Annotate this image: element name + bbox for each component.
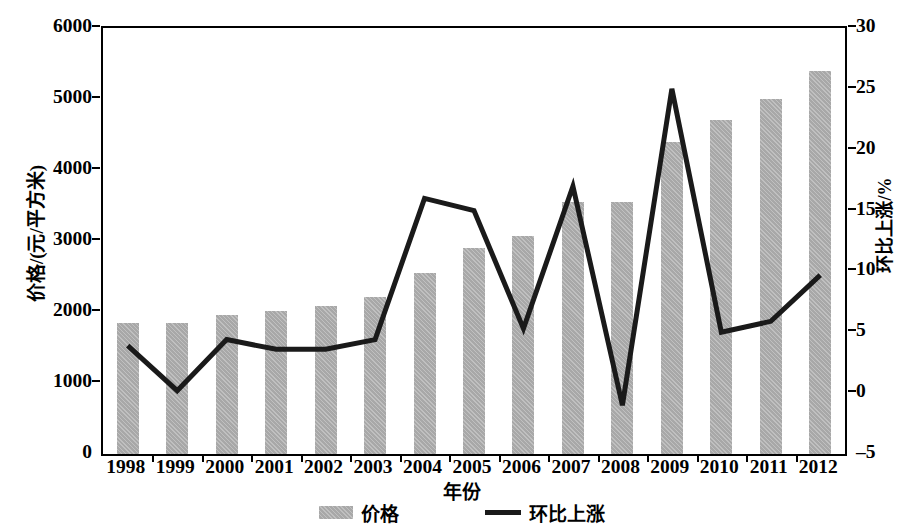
y-tickmark-right-0 — [848, 390, 856, 392]
y-tick-right-5: 5 — [856, 319, 866, 341]
bar-2001 — [265, 311, 287, 454]
y-tick-right--5: –5 — [856, 441, 876, 463]
bar-2004 — [414, 273, 436, 454]
y-tick-right-15: 15 — [856, 198, 876, 220]
x-tick-2002: 2002 — [304, 456, 343, 478]
y-tick-left-3000: 3000 — [53, 228, 92, 250]
chart-figure: 价格/(元/平方米) 环比上涨/% 0100020003000400050006… — [0, 0, 924, 526]
bar-1999 — [166, 323, 188, 454]
x-tick-2008: 2008 — [601, 456, 640, 478]
x-tick-2004: 2004 — [403, 456, 442, 478]
x-tick-2012: 2012 — [799, 456, 838, 478]
y-tickmark-right-5 — [848, 329, 856, 331]
x-tick-2003: 2003 — [354, 456, 393, 478]
bar-1998 — [117, 323, 139, 454]
x-tick-2005: 2005 — [453, 456, 492, 478]
y-tick-left-4000: 4000 — [53, 157, 92, 179]
y-tickmark-left-6000 — [92, 25, 100, 27]
bar-2006 — [512, 236, 534, 454]
y-axis-right-ticks: –5051015202530 — [856, 26, 916, 452]
y-axis-left-ticks: 0100020003000400050006000 — [18, 26, 92, 452]
y-tick-right-10: 10 — [856, 258, 876, 280]
x-tick-1998: 1998 — [106, 456, 145, 478]
y-tick-right-25: 25 — [856, 76, 876, 98]
bar-2005 — [463, 248, 485, 454]
y-tickmark-left-1000 — [92, 380, 100, 382]
x-tick-2001: 2001 — [255, 456, 294, 478]
y-tickmark-left-4000 — [92, 167, 100, 169]
bar-2012 — [809, 71, 831, 454]
bar-2007 — [562, 202, 584, 454]
bar-2003 — [364, 297, 386, 454]
x-tick-2007: 2007 — [551, 456, 590, 478]
y-tickmark-left-2000 — [92, 309, 100, 311]
y-tickmark-right-30 — [848, 25, 856, 27]
x-axis-title: 年份 — [0, 477, 924, 504]
bar-2008 — [611, 202, 633, 454]
x-tick-2011: 2011 — [750, 456, 788, 478]
y-tickmark-right-25 — [848, 86, 856, 88]
y-tickmark-left-5000 — [92, 96, 100, 98]
y-tick-left-0: 0 — [82, 441, 92, 463]
x-tick-2006: 2006 — [502, 456, 541, 478]
bar-2011 — [760, 99, 782, 454]
y-tickmark-right-15 — [848, 208, 856, 210]
y-tickmark-right-10 — [848, 268, 856, 270]
bar-2002 — [315, 306, 337, 454]
x-tick-2009: 2009 — [650, 456, 689, 478]
y-tick-left-2000: 2000 — [53, 299, 92, 321]
x-tick-2000: 2000 — [205, 456, 244, 478]
y-tickmark-left-3000 — [92, 238, 100, 240]
bar-2000 — [216, 315, 238, 454]
bar-2009 — [661, 142, 683, 454]
y-tickmark-right-20 — [848, 147, 856, 149]
plot-area — [101, 26, 847, 456]
legend-line-swatch-icon — [485, 510, 521, 515]
y-tick-left-6000: 6000 — [53, 15, 92, 37]
y-tick-right-30: 30 — [856, 15, 876, 37]
x-tick-2010: 2010 — [700, 456, 739, 478]
bar-2010 — [710, 120, 732, 454]
legend-bar-swatch-icon — [319, 506, 353, 519]
y-tick-left-5000: 5000 — [53, 86, 92, 108]
y-tick-left-1000: 1000 — [53, 370, 92, 392]
x-tick-1999: 1999 — [156, 456, 195, 478]
y-tick-right-0: 0 — [856, 380, 866, 402]
plot-inner — [103, 28, 845, 454]
y-tick-right-20: 20 — [856, 137, 876, 159]
